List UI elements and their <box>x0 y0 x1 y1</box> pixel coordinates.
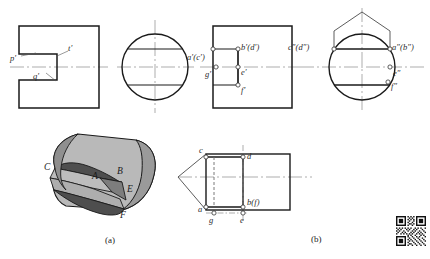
point-marker-g-prime <box>214 65 218 69</box>
point-marker-cd-dprime <box>332 47 336 51</box>
caption-b: (b) <box>311 235 322 244</box>
point-marker-bd-prime <box>236 47 240 51</box>
point-marker-e-dprime <box>388 65 392 69</box>
label-c-dprime-d-dprime: c″(d″) <box>288 43 309 52</box>
point-marker-f-prime <box>236 83 240 87</box>
sheet-background <box>0 0 430 259</box>
point-marker-f-dprime <box>386 80 390 84</box>
label-point-c: c <box>199 146 203 155</box>
point-marker-c <box>204 155 208 159</box>
point-marker-bf <box>241 205 245 209</box>
label-q-prime: q′ <box>33 72 39 81</box>
label-t-prime: t′ <box>68 44 72 53</box>
technical-drawing-sheet <box>0 0 430 259</box>
label-point-b-f: b(f) <box>247 198 260 207</box>
label-point-E: E <box>127 185 133 195</box>
qr-code[interactable] <box>396 216 426 246</box>
label-point-C: C <box>44 163 50 173</box>
point-marker-e-prime <box>236 65 240 69</box>
label-point-B: B <box>117 167 123 177</box>
label-point-g: g <box>209 216 213 225</box>
point-marker-d <box>241 155 245 159</box>
label-a-prime-c-prime: a′(c′) <box>187 53 205 62</box>
label-e-dprime: e″ <box>393 69 401 78</box>
label-point-A: A <box>92 172 98 182</box>
point-marker-a <box>204 205 208 209</box>
label-g-prime: g′ <box>205 70 211 79</box>
point-marker-ac-prime <box>211 47 215 51</box>
label-a-dprime-b-dprime: a″(b″) <box>392 43 414 52</box>
label-p-prime: p′ <box>10 54 16 63</box>
label-b-prime-d-prime: b′(d′) <box>241 43 259 52</box>
label-point-a: a <box>198 205 202 214</box>
label-point-e: e <box>240 216 244 225</box>
label-point-d: d <box>247 152 251 161</box>
label-f-prime: f′ <box>241 86 245 95</box>
caption-a: (a) <box>105 236 115 245</box>
label-point-F: F <box>120 211 126 221</box>
label-e-prime: e′ <box>241 68 247 77</box>
label-f-dprime: f″ <box>391 82 397 91</box>
